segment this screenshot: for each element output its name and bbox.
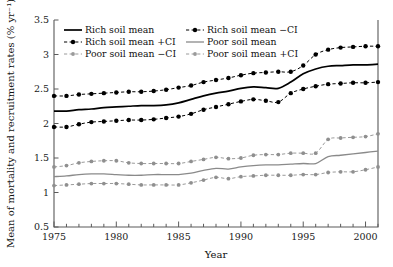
series-marker-5 xyxy=(239,156,243,160)
series-marker-4 xyxy=(301,173,305,177)
series-marker-1 xyxy=(52,125,56,129)
series-marker-2 xyxy=(289,70,293,74)
series-marker-2 xyxy=(201,80,205,84)
series-marker-2 xyxy=(127,90,131,94)
series-marker-1 xyxy=(189,112,193,116)
series-marker-4 xyxy=(326,171,330,175)
series-marker-1 xyxy=(251,97,255,101)
series-marker-1 xyxy=(201,108,205,112)
series-marker-5 xyxy=(177,162,181,166)
series-marker-2 xyxy=(338,45,342,49)
legend-swatch-marker xyxy=(71,52,75,56)
x-axis-title: Year xyxy=(204,249,228,260)
series-marker-5 xyxy=(114,159,118,163)
series-marker-2 xyxy=(176,85,180,89)
series-marker-4 xyxy=(65,183,69,187)
series-marker-5 xyxy=(227,157,231,161)
y-tick-label: 3 xyxy=(43,49,49,60)
series-marker-5 xyxy=(351,135,355,139)
series-marker-4 xyxy=(227,177,231,181)
series-marker-4 xyxy=(77,182,81,186)
series-marker-1 xyxy=(226,102,230,106)
series-marker-1 xyxy=(239,99,243,103)
series-marker-2 xyxy=(151,89,155,93)
series-marker-4 xyxy=(289,173,293,177)
series-marker-2 xyxy=(139,90,143,94)
series-marker-2 xyxy=(52,94,56,98)
series-marker-1 xyxy=(64,125,68,129)
series-marker-1 xyxy=(77,122,81,126)
series-marker-5 xyxy=(314,151,318,155)
series-marker-1 xyxy=(214,105,218,109)
series-marker-1 xyxy=(176,114,180,118)
series-marker-1 xyxy=(164,116,168,120)
series-marker-1 xyxy=(351,81,355,85)
y-axis-title: Mean of mortality and recruitment rates … xyxy=(5,0,16,248)
series-marker-4 xyxy=(152,183,156,187)
series-marker-2 xyxy=(189,83,193,87)
series-marker-2 xyxy=(114,90,118,94)
series-marker-4 xyxy=(339,170,343,174)
series-marker-4 xyxy=(139,183,143,187)
series-marker-2 xyxy=(164,87,168,91)
series-marker-4 xyxy=(127,182,131,186)
x-tick-label: 2000 xyxy=(353,231,377,242)
series-marker-5 xyxy=(152,162,156,166)
series-marker-2 xyxy=(89,92,93,96)
series-marker-4 xyxy=(164,183,168,187)
legend-label: Poor soil mean +CI xyxy=(207,48,298,59)
series-marker-2 xyxy=(77,92,81,96)
series-marker-5 xyxy=(214,155,218,159)
series-marker-5 xyxy=(276,153,280,157)
legend-label: Rich soil mean +CI xyxy=(85,36,176,47)
legend-label: Poor soil mean −CI xyxy=(85,48,176,59)
chart-plot-svg: 0.511.522.533.5197519801985199019952000 … xyxy=(0,0,393,267)
series-marker-1 xyxy=(338,81,342,85)
legend-swatch-marker xyxy=(193,28,197,32)
x-tick-label: 1975 xyxy=(42,231,66,242)
series-marker-2 xyxy=(376,44,380,48)
series-marker-4 xyxy=(177,183,181,187)
series-marker-5 xyxy=(77,161,81,165)
series-marker-2 xyxy=(214,78,218,82)
series-marker-4 xyxy=(251,174,255,178)
series-marker-4 xyxy=(189,181,193,185)
series-marker-5 xyxy=(52,165,56,169)
series-marker-2 xyxy=(264,70,268,74)
series-marker-5 xyxy=(339,136,343,140)
series-marker-2 xyxy=(239,73,243,77)
y-tick-label: 2 xyxy=(43,118,49,129)
series-marker-5 xyxy=(202,157,206,161)
series-marker-4 xyxy=(102,182,106,186)
series-marker-4 xyxy=(264,173,268,177)
series-marker-1 xyxy=(326,82,330,86)
y-tick-label: 2.5 xyxy=(34,83,49,94)
series-marker-2 xyxy=(363,44,367,48)
series-marker-2 xyxy=(301,63,305,67)
y-tick-label: 3.5 xyxy=(34,14,49,25)
series-marker-1 xyxy=(276,100,280,104)
legend-label: Poor soil mean xyxy=(207,36,277,47)
series-marker-5 xyxy=(189,160,193,164)
legend-swatch-marker xyxy=(71,40,75,44)
series-marker-1 xyxy=(376,80,380,84)
series-marker-2 xyxy=(276,70,280,74)
series-marker-1 xyxy=(264,99,268,103)
series-marker-1 xyxy=(313,84,317,88)
series-marker-5 xyxy=(376,132,380,136)
series-marker-4 xyxy=(276,173,280,177)
series-marker-5 xyxy=(164,162,168,166)
series-marker-4 xyxy=(376,165,380,169)
series-marker-5 xyxy=(301,151,305,155)
x-tick-label: 1980 xyxy=(104,231,128,242)
series-marker-2 xyxy=(102,91,106,95)
series-marker-1 xyxy=(289,91,293,95)
series-marker-2 xyxy=(313,52,317,56)
series-marker-4 xyxy=(364,168,368,172)
x-tick-label: 1985 xyxy=(167,231,191,242)
series-marker-5 xyxy=(89,160,93,164)
y-tick-label: 1.5 xyxy=(34,152,49,163)
series-marker-4 xyxy=(239,175,243,179)
series-marker-4 xyxy=(89,182,93,186)
series-marker-5 xyxy=(65,164,69,168)
